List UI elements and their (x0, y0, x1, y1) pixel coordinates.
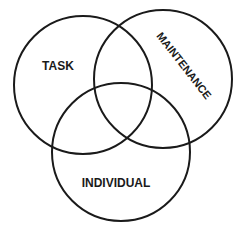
task-label: TASK (42, 59, 74, 73)
individual-label: INDIVIDUAL (82, 176, 151, 190)
task-circle (14, 16, 152, 154)
maintenance-label: MAINTENANCE (154, 30, 213, 101)
venn-diagram: TASK MAINTENANCE INDIVIDUAL (0, 0, 243, 233)
individual-circle (52, 83, 190, 221)
